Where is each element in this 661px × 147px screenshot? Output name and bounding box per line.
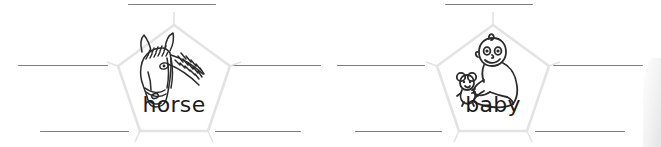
word-label-horse: horse (115, 92, 233, 117)
blank-line-baby-top[interactable] (445, 4, 533, 5)
pentagon-card-baby[interactable]: baby (434, 22, 552, 134)
blank-line-horse-right[interactable] (232, 65, 321, 66)
word-web-cluster-horse: horse (0, 0, 331, 147)
worksheet-canvas: horse (0, 0, 661, 147)
word-web-cluster-baby: baby (330, 0, 661, 147)
blank-line-baby-left[interactable] (337, 65, 425, 66)
word-label-baby: baby (434, 92, 552, 117)
blank-line-horse-left[interactable] (18, 65, 108, 66)
baby-with-teddy-illustration (434, 22, 552, 134)
pentagon-card-horse[interactable]: horse (115, 22, 233, 134)
horse-head-illustration (115, 22, 233, 134)
blank-line-baby-bottom-left[interactable] (355, 131, 442, 132)
blank-line-baby-right[interactable] (553, 65, 643, 66)
blank-line-horse-top[interactable] (128, 4, 216, 5)
